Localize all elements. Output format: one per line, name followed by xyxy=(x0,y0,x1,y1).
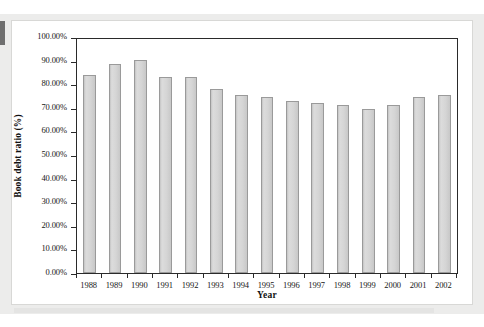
x-axis-tick-mark xyxy=(304,274,305,278)
bar-1996 xyxy=(286,101,299,273)
y-axis-tick-mark xyxy=(71,180,76,181)
bar-1988 xyxy=(83,75,96,273)
y-axis-tick-label: 60.00% xyxy=(41,125,67,135)
x-axis-tick-mark xyxy=(456,274,457,278)
y-axis-tick-label: 10.00% xyxy=(41,243,67,253)
bar-2000 xyxy=(387,105,400,273)
y-axis-tick-label: 70.00% xyxy=(41,102,67,112)
bar-1993 xyxy=(210,89,223,273)
x-axis-tick-label: 2000 xyxy=(380,280,405,290)
y-axis-tick-label: 40.00% xyxy=(41,173,67,183)
x-axis-tick-mark xyxy=(228,274,229,278)
y-axis-tick-mark xyxy=(71,227,76,228)
y-axis-tick-mark xyxy=(71,132,76,133)
bar-slot xyxy=(261,39,274,273)
y-axis-tick-mark xyxy=(71,62,76,63)
y-axis-tick-mark xyxy=(71,109,76,110)
x-axis-tick-label: 1998 xyxy=(329,280,354,290)
bar-slot xyxy=(109,39,122,273)
x-axis-tick-mark xyxy=(203,274,204,278)
x-axis-tick-mark xyxy=(253,274,254,278)
x-axis-tick-mark xyxy=(405,274,406,278)
x-axis-tick-label: 1988 xyxy=(76,280,101,290)
bar-1992 xyxy=(185,77,198,273)
bar-series xyxy=(77,39,457,273)
bar-2001 xyxy=(413,97,426,273)
bar-1990 xyxy=(134,60,147,273)
bar-2002 xyxy=(438,95,451,273)
y-axis-tick-label: 80.00% xyxy=(41,78,67,88)
x-axis-tick-mark xyxy=(355,274,356,278)
bar-slot xyxy=(210,39,223,273)
x-axis-tick-mark xyxy=(380,274,381,278)
x-axis-tick-mark xyxy=(177,274,178,278)
y-axis-tick-label: 0.00% xyxy=(46,267,67,277)
x-axis-tick-label: 2002 xyxy=(431,280,456,290)
y-axis-tick-label: 100.00% xyxy=(37,31,67,41)
x-axis-tick-label: 1999 xyxy=(355,280,380,290)
y-axis-tick-mark xyxy=(71,250,76,251)
x-axis-tick-mark xyxy=(127,274,128,278)
x-axis-tick-mark xyxy=(431,274,432,278)
x-axis-tick-label: 1996 xyxy=(279,280,304,290)
bar-chart: 0.00%10.00%20.00%30.00%40.00%50.00%60.00… xyxy=(0,0,484,327)
x-axis-tick-mark xyxy=(279,274,280,278)
x-axis-tick-label: 1991 xyxy=(152,280,177,290)
y-axis-tick-label: 90.00% xyxy=(41,55,67,65)
bar-1989 xyxy=(109,64,122,273)
bar-slot xyxy=(286,39,299,273)
bar-slot xyxy=(159,39,172,273)
bar-slot xyxy=(185,39,198,273)
y-axis-tick-label: 50.00% xyxy=(41,149,67,159)
bar-slot xyxy=(337,39,350,273)
bar-1998 xyxy=(337,105,350,273)
x-axis-tick-mark xyxy=(152,274,153,278)
x-axis-tick-label: 1989 xyxy=(101,280,126,290)
bar-1997 xyxy=(311,103,324,273)
bar-slot xyxy=(134,39,147,273)
bar-slot xyxy=(235,39,248,273)
scanned-page: 0.00%10.00%20.00%30.00%40.00%50.00%60.00… xyxy=(0,0,484,327)
bar-slot xyxy=(438,39,451,273)
x-axis-tick-mark xyxy=(329,274,330,278)
y-axis-tick-mark xyxy=(71,85,76,86)
x-axis-tick-label: 1990 xyxy=(127,280,152,290)
bar-slot xyxy=(83,39,96,273)
y-axis-title: Book debt ratio (%) xyxy=(13,38,27,274)
bar-1995 xyxy=(261,97,274,273)
y-axis-tick-label: 30.00% xyxy=(41,196,67,206)
y-axis-tick-mark xyxy=(71,203,76,204)
bar-slot xyxy=(362,39,375,273)
y-axis-tick-mark xyxy=(71,156,76,157)
x-axis-tick-label: 1992 xyxy=(177,280,202,290)
x-axis-tick-label: 1997 xyxy=(304,280,329,290)
x-axis-tick-label: 1994 xyxy=(228,280,253,290)
y-axis-tick-label: 20.00% xyxy=(41,220,67,230)
bar-1994 xyxy=(235,95,248,273)
x-axis-title: Year xyxy=(76,290,458,300)
x-axis-tick-label: 2001 xyxy=(405,280,430,290)
x-axis-tick-mark xyxy=(101,274,102,278)
x-axis-tick-mark xyxy=(76,274,77,278)
bar-slot xyxy=(387,39,400,273)
bar-slot xyxy=(413,39,426,273)
bar-1991 xyxy=(159,77,172,273)
y-axis-tick-mark xyxy=(71,38,76,39)
x-axis-tick-label: 1995 xyxy=(253,280,278,290)
bar-slot xyxy=(311,39,324,273)
bar-1999 xyxy=(362,109,375,273)
x-axis-tick-label: 1993 xyxy=(203,280,228,290)
y-axis: 0.00%10.00%20.00%30.00%40.00%50.00%60.00… xyxy=(0,38,76,274)
